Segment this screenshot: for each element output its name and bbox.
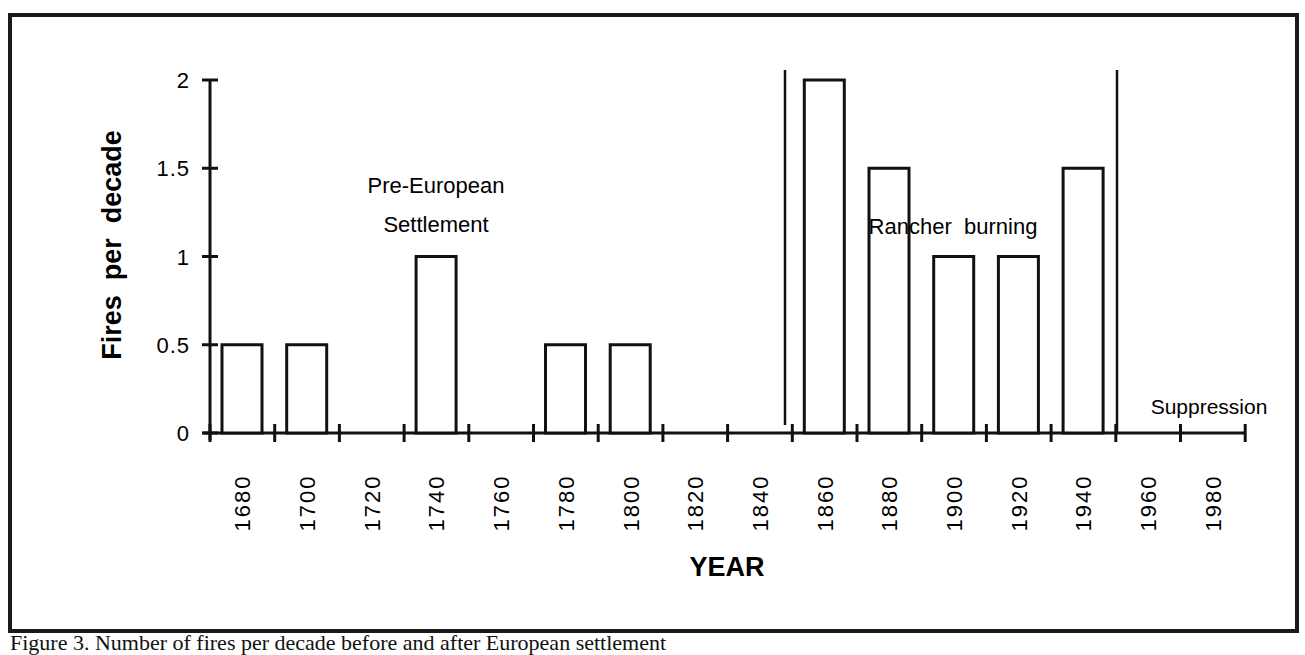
y-tick-label: 2	[177, 68, 190, 93]
bar-1680	[222, 345, 262, 433]
x-ticks: 1680170017201740176017801800182018401860…	[210, 424, 1245, 531]
x-tick-label: 1740	[424, 475, 449, 532]
x-tick-label: 1900	[942, 475, 967, 532]
bar-1860	[804, 80, 844, 433]
bar-1900	[934, 257, 974, 434]
x-tick-label: 1700	[295, 475, 320, 532]
x-tick-label: 1980	[1201, 475, 1226, 532]
annotation-rancher-burning: Rancher burning	[869, 214, 1038, 239]
bar-1740	[416, 257, 456, 434]
x-tick-label: 1820	[683, 475, 708, 532]
bar-1920	[998, 257, 1038, 434]
annotation-settlement: Settlement	[383, 212, 488, 237]
y-tick-label: 0	[177, 421, 190, 446]
x-axis-title: YEAR	[689, 552, 764, 582]
x-tick-label: 1940	[1071, 475, 1096, 532]
x-tick-label: 1680	[230, 475, 255, 532]
y-axis-title: Fires per decade	[97, 130, 127, 360]
figure-caption: Figure 3. Number of fires per decade bef…	[10, 632, 666, 654]
bar-1940	[1063, 168, 1103, 433]
x-tick-label: 1760	[489, 475, 514, 532]
bar-1800	[610, 345, 650, 433]
y-tick-label: 1	[177, 245, 190, 270]
annotation-pre-european: Pre-European	[368, 173, 505, 198]
bars	[222, 80, 1103, 433]
y-tick-label: 0.5	[156, 333, 190, 358]
x-tick-label: 1840	[748, 475, 773, 532]
x-tick-label: 1880	[877, 475, 902, 532]
bar-1780	[546, 345, 586, 433]
x-tick-label: 1780	[554, 475, 579, 532]
x-tick-label: 1720	[360, 475, 385, 532]
x-tick-label: 1960	[1136, 475, 1161, 532]
bar-1700	[287, 345, 327, 433]
y-tick-label: 1.5	[156, 156, 190, 181]
x-tick-label: 1860	[813, 475, 838, 532]
annotation-suppression: Suppression	[1151, 395, 1268, 418]
bar-1880	[869, 168, 909, 433]
x-tick-label: 1920	[1007, 475, 1032, 532]
x-tick-label: 1800	[619, 475, 644, 532]
